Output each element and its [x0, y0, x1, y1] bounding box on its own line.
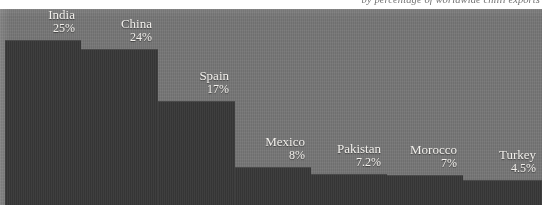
bar-percentage-value: 4.5% [499, 162, 536, 176]
chilli-exports-bar-chart: by percentage of worldwide chilli export… [0, 0, 542, 205]
bar-india [5, 40, 81, 205]
chart-caption: by percentage of worldwide chilli export… [362, 0, 540, 5]
bar-country-name: Turkey [499, 147, 536, 162]
bar-label-mexico: Mexico8% [265, 134, 305, 163]
bar-china [81, 49, 158, 205]
bar-country-name: Pakistan [337, 141, 381, 156]
bar-percentage-value: 17% [199, 83, 229, 97]
bar-label-china: China24% [121, 16, 152, 45]
bar-percentage-value: 25% [48, 22, 75, 36]
bar-label-pakistan: Pakistan7.2% [337, 141, 381, 170]
bar-spain [158, 101, 235, 205]
bar-mexico [235, 167, 311, 205]
bar-country-name: Morocco [410, 142, 457, 157]
bar-percentage-value: 7% [410, 157, 457, 171]
bar-percentage-value: 8% [265, 149, 305, 163]
bar-country-name: Mexico [265, 134, 305, 149]
bar-country-name: China [121, 16, 152, 31]
bar-morocco [387, 175, 463, 205]
bar-percentage-value: 7.2% [337, 156, 381, 170]
bar-label-turkey: Turkey4.5% [499, 147, 536, 176]
chart-plot-area: India25%China24%Spain17%Mexico8%Pakistan… [0, 9, 542, 205]
bar-percentage-value: 24% [121, 31, 152, 45]
bar-label-morocco: Morocco7% [410, 142, 457, 171]
bar-turkey [463, 180, 542, 205]
bar-label-spain: Spain17% [199, 68, 229, 97]
bar-label-india: India25% [48, 9, 75, 36]
bar-pakistan [311, 174, 387, 205]
bar-country-name: Spain [199, 68, 229, 83]
